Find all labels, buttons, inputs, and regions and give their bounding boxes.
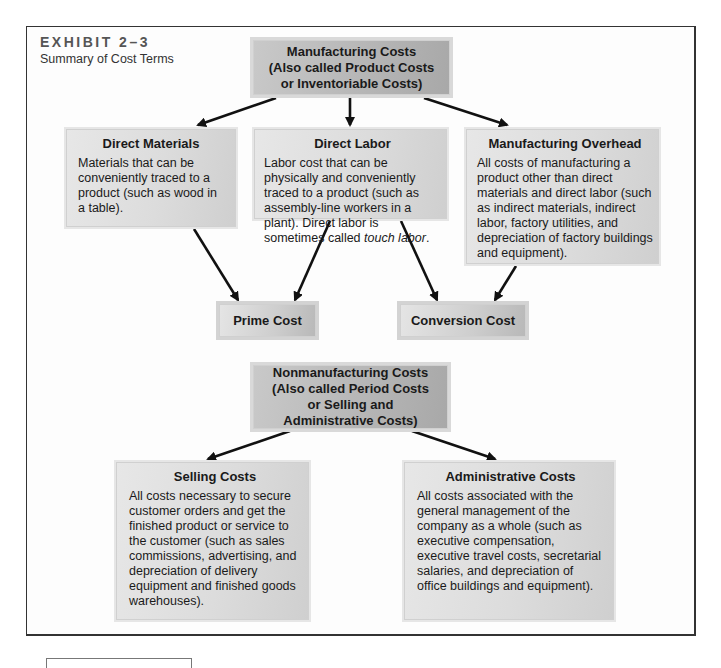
arrow-mfg-to-materials (198, 98, 276, 125)
administrative-costs-box: Administrative Costs All costs associate… (402, 460, 616, 622)
arrow-overhead-to-conversion (495, 266, 516, 300)
manufacturing-overhead-title: Manufacturing Overhead (477, 136, 653, 152)
conversion-cost-title: Conversion Cost (411, 313, 515, 328)
touch-labor-term: touch labor (364, 231, 426, 245)
manufacturing-overhead-box: Manufacturing Overhead All costs of manu… (464, 127, 661, 266)
selling-costs-box: Selling Costs All costs necessary to sec… (114, 460, 311, 622)
selling-costs-title: Selling Costs (129, 469, 301, 485)
nonmanufacturing-costs-title: Nonmanufacturing Costs (Also called Peri… (272, 365, 429, 429)
prime-cost-title: Prime Cost (233, 313, 302, 328)
direct-labor-description: Labor cost that can be physically and co… (264, 156, 441, 246)
administrative-costs-description: All costs associated with the general ma… (417, 489, 604, 594)
arrow-nonmfg-to-admin (412, 431, 495, 459)
direct-materials-box: Direct Materials Materials that can be c… (64, 127, 238, 229)
conversion-cost-box: Conversion Cost (397, 301, 529, 340)
direct-materials-description: Materials that can be conveniently trace… (78, 156, 224, 216)
page-edge-rectangle (46, 658, 192, 668)
direct-labor-period: . (426, 231, 429, 245)
administrative-costs-title: Administrative Costs (417, 469, 604, 485)
manufacturing-costs-box: Manufacturing Costs (Also called Product… (250, 37, 453, 98)
arrow-mfg-to-overhead (424, 98, 507, 125)
direct-labor-box: Direct Labor Labor cost that can be phys… (252, 127, 449, 221)
selling-costs-description: All costs necessary to secure customer o… (129, 489, 301, 609)
prime-cost-box: Prime Cost (216, 301, 319, 340)
arrow-materials-to-prime (194, 229, 238, 300)
manufacturing-costs-title: Manufacturing Costs (Also called Product… (269, 44, 434, 92)
nonmanufacturing-costs-box: Nonmanufacturing Costs (Also called Peri… (250, 362, 451, 432)
direct-materials-title: Direct Materials (78, 136, 224, 152)
arrow-nonmfg-to-selling (208, 431, 290, 459)
manufacturing-overhead-description: All costs of manufacturing a product oth… (477, 156, 653, 261)
direct-labor-title: Direct Labor (264, 136, 441, 152)
